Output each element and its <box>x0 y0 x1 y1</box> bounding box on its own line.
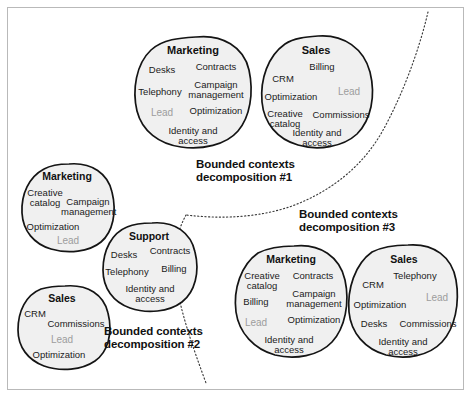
group-label-line2: decomposition #2 <box>104 338 234 351</box>
blob-item-campaign-management: Campaign management <box>284 289 344 309</box>
group-label-line1: Bounded contexts <box>104 325 234 338</box>
blob-item-billing: Billing <box>152 264 196 274</box>
blob-title-marketing-3: Marketing <box>232 253 350 265</box>
group-label-line1: Bounded contexts <box>196 158 326 171</box>
blob-title-marketing-2: Marketing <box>18 170 116 182</box>
blob-item-lead: Lead <box>140 108 184 118</box>
blob-item-optimization: Optimization <box>281 315 347 325</box>
blob-item-optimization: Optimization <box>347 300 413 310</box>
blob-item-identity-and-access: Identity and access <box>159 126 227 146</box>
blob-item-billing: Billing <box>234 297 278 307</box>
blob-item-contracts: Contracts <box>284 271 342 281</box>
blob-item-commissions: Commissions <box>309 110 373 120</box>
blob-support-2[interactable]: Support Desks Contracts Telephony Billin… <box>100 220 198 316</box>
blob-item-optimization: Optimization <box>26 350 92 360</box>
blob-item-identity-and-access: Identity and access <box>256 335 322 355</box>
blob-item-identity-and-access: Identity and access <box>117 284 183 304</box>
blob-item-optimization: Optimization <box>258 92 324 102</box>
group-label-decomposition-3: Bounded contexts decomposition #3 <box>299 208 439 234</box>
blob-item-identity-and-access: Identity and access <box>370 337 436 357</box>
blob-item-campaign-management: Campaign management <box>61 197 115 217</box>
blob-item-lead: Lead <box>48 236 88 246</box>
blob-item-identity-and-access: Identity and access <box>284 128 350 148</box>
blob-item-crm: CRM <box>354 280 392 290</box>
blob-item-lead: Lead <box>42 335 82 345</box>
blob-title-sales-3: Sales <box>346 253 462 265</box>
blob-marketing-1[interactable]: Marketing Desks Contracts Telephony Camp… <box>133 34 253 152</box>
blob-item-campaign-management: Campaign management <box>185 80 247 100</box>
group-label-line1: Bounded contexts <box>299 208 439 221</box>
blob-title-sales-2: Sales <box>14 292 110 304</box>
blob-item-commissions: Commissions <box>44 319 108 329</box>
blob-sales-2[interactable]: Sales CRM Commissions Lead Optimization <box>14 283 110 373</box>
group-label-line2: decomposition #3 <box>299 221 439 234</box>
blob-title-sales-1: Sales <box>258 44 374 56</box>
blob-item-creative-catalog: Creative catalog <box>261 109 309 129</box>
blob-sales-1[interactable]: Sales CRM Billing Optimization Lead Crea… <box>258 34 374 152</box>
blob-item-crm: CRM <box>264 74 302 84</box>
diagram-canvas: Marketing Desks Contracts Telephony Camp… <box>0 0 474 401</box>
blob-item-telephony: Telephony <box>100 267 154 277</box>
blob-sales-3[interactable]: Sales CRM Telephony Lead Optimization De… <box>346 243 462 361</box>
group-label-line2: decomposition #1 <box>196 171 326 184</box>
blob-item-contracts: Contracts <box>142 246 198 256</box>
blob-item-telephony: Telephony <box>134 87 186 97</box>
group-label-decomposition-1: Bounded contexts decomposition #1 <box>196 158 326 184</box>
blob-item-billing: Billing <box>301 62 343 72</box>
blob-item-telephony: Telephony <box>387 271 443 281</box>
blob-item-lead: Lead <box>236 318 276 328</box>
blob-item-creative-catalog: Creative catalog <box>238 271 286 291</box>
blob-item-desks: Desks <box>353 319 395 329</box>
blob-item-commissions: Commissions <box>396 319 460 329</box>
blob-item-desks: Desks <box>103 250 145 260</box>
blob-item-lead: Lead <box>329 87 369 97</box>
blob-title-marketing-1: Marketing <box>133 44 253 56</box>
group-label-decomposition-2: Bounded contexts decomposition #2 <box>104 325 234 351</box>
blob-marketing-3[interactable]: Marketing Creative catalog Contracts Bil… <box>232 243 350 361</box>
blob-item-optimization: Optimization <box>183 106 249 116</box>
blob-title-support-2: Support <box>100 230 198 242</box>
blob-item-optimization: Optimization <box>20 222 86 232</box>
blob-item-lead: Lead <box>417 293 457 303</box>
blob-item-contracts: Contracts <box>185 62 247 72</box>
blob-item-desks: Desks <box>140 65 184 75</box>
